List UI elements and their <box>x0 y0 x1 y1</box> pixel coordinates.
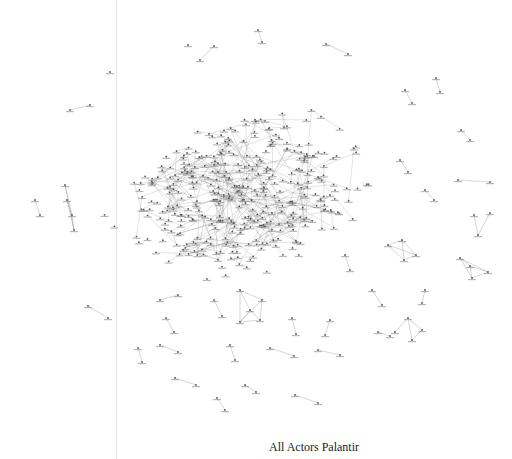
actor-node[interactable] <box>271 139 273 141</box>
actor-node[interactable] <box>213 164 215 166</box>
actor-node[interactable] <box>282 254 284 256</box>
actor-node[interactable] <box>210 184 212 186</box>
actor-node[interactable] <box>188 147 190 149</box>
actor-node[interactable] <box>263 190 265 192</box>
actor-node[interactable] <box>227 137 229 139</box>
actor-node[interactable] <box>249 309 251 311</box>
actor-node[interactable] <box>223 194 225 196</box>
actor-node[interactable] <box>257 29 259 31</box>
actor-node[interactable] <box>169 176 171 178</box>
actor-node[interactable] <box>357 188 359 190</box>
actor-node[interactable] <box>274 195 276 197</box>
actor-node[interactable] <box>279 190 281 192</box>
actor-node[interactable] <box>271 229 273 231</box>
actor-node[interactable] <box>265 194 267 196</box>
actor-node[interactable] <box>221 149 223 151</box>
actor-node[interactable] <box>191 170 193 172</box>
actor-node[interactable] <box>268 177 270 179</box>
actor-node[interactable] <box>73 229 75 231</box>
actor-node[interactable] <box>324 152 326 154</box>
actor-node[interactable] <box>204 165 206 167</box>
actor-node[interactable] <box>201 249 203 251</box>
actor-node[interactable] <box>193 187 195 189</box>
actor-node[interactable] <box>469 265 471 267</box>
actor-node[interactable] <box>183 155 185 157</box>
actor-node[interactable] <box>155 251 157 253</box>
actor-node[interactable] <box>295 241 297 243</box>
actor-node[interactable] <box>147 215 149 217</box>
actor-node[interactable] <box>291 214 293 216</box>
actor-node[interactable] <box>317 151 319 153</box>
actor-node[interactable] <box>141 361 143 363</box>
actor-node[interactable] <box>217 259 219 261</box>
actor-node[interactable] <box>433 199 435 201</box>
actor-node[interactable] <box>191 181 193 183</box>
actor-node[interactable] <box>188 163 190 165</box>
actor-node[interactable] <box>275 245 277 247</box>
actor-node[interactable] <box>304 158 306 160</box>
actor-node[interactable] <box>173 331 175 333</box>
actor-node[interactable] <box>255 391 257 393</box>
actor-node[interactable] <box>198 156 200 158</box>
actor-node[interactable] <box>252 168 254 170</box>
actor-node[interactable] <box>292 212 294 214</box>
actor-node[interactable] <box>179 253 181 255</box>
actor-node[interactable] <box>291 317 293 319</box>
actor-node[interactable] <box>210 236 212 238</box>
actor-node[interactable] <box>159 344 161 346</box>
actor-node[interactable] <box>259 319 261 321</box>
actor-node[interactable] <box>187 44 189 46</box>
actor-node[interactable] <box>184 169 186 171</box>
actor-node[interactable] <box>192 219 194 221</box>
actor-node[interactable] <box>224 141 226 143</box>
actor-node[interactable] <box>348 200 350 202</box>
actor-node[interactable] <box>187 208 189 210</box>
actor-node[interactable] <box>186 243 188 245</box>
actor-node[interactable] <box>277 238 279 240</box>
actor-node[interactable] <box>195 204 197 206</box>
actor-node[interactable] <box>346 187 348 189</box>
actor-node[interactable] <box>138 189 140 191</box>
actor-node[interactable] <box>317 349 319 351</box>
actor-node[interactable] <box>243 222 245 224</box>
actor-node[interactable] <box>176 150 178 152</box>
actor-node[interactable] <box>282 179 284 181</box>
actor-node[interactable] <box>256 155 258 157</box>
actor-node[interactable] <box>228 177 230 179</box>
actor-node[interactable] <box>381 304 383 306</box>
actor-node[interactable] <box>133 182 135 184</box>
actor-node[interactable] <box>329 319 331 321</box>
actor-node[interactable] <box>300 151 302 153</box>
actor-node[interactable] <box>177 179 179 181</box>
actor-node[interactable] <box>217 171 219 173</box>
actor-node[interactable] <box>339 354 341 356</box>
actor-node[interactable] <box>286 147 288 149</box>
actor-node[interactable] <box>256 164 258 166</box>
actor-node[interactable] <box>213 45 215 47</box>
actor-node[interactable] <box>239 170 241 172</box>
actor-node[interactable] <box>201 155 203 157</box>
actor-node[interactable] <box>435 77 437 79</box>
actor-node[interactable] <box>471 277 473 279</box>
actor-node[interactable] <box>324 334 326 336</box>
actor-node[interactable] <box>304 224 306 226</box>
actor-node[interactable] <box>149 208 151 210</box>
actor-node[interactable] <box>224 163 226 165</box>
actor-node[interactable] <box>219 215 221 217</box>
actor-node[interactable] <box>239 321 241 323</box>
actor-node[interactable] <box>292 247 294 249</box>
actor-node[interactable] <box>177 351 179 353</box>
actor-node[interactable] <box>334 198 336 200</box>
actor-node[interactable] <box>238 190 240 192</box>
actor-node[interactable] <box>167 206 169 208</box>
actor-node[interactable] <box>195 384 197 386</box>
actor-node[interactable] <box>255 239 257 241</box>
actor-node[interactable] <box>104 214 106 216</box>
actor-node[interactable] <box>206 278 208 280</box>
actor-node[interactable] <box>311 109 313 111</box>
actor-node[interactable] <box>368 183 370 185</box>
actor-node[interactable] <box>407 171 409 173</box>
actor-node[interactable] <box>180 225 182 227</box>
actor-node[interactable] <box>457 179 459 181</box>
actor-node[interactable] <box>256 243 258 245</box>
